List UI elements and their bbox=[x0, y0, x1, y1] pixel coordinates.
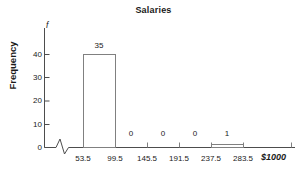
axis-break-icon bbox=[56, 139, 69, 154]
histogram-figure: Salaries Frequency f 40 30 20 10 0 53.5 … bbox=[0, 0, 307, 176]
plot-area bbox=[0, 0, 307, 176]
histogram-bar-53-5-99-5 bbox=[84, 55, 116, 148]
histogram-bar-237-5-283-5 bbox=[212, 145, 244, 148]
